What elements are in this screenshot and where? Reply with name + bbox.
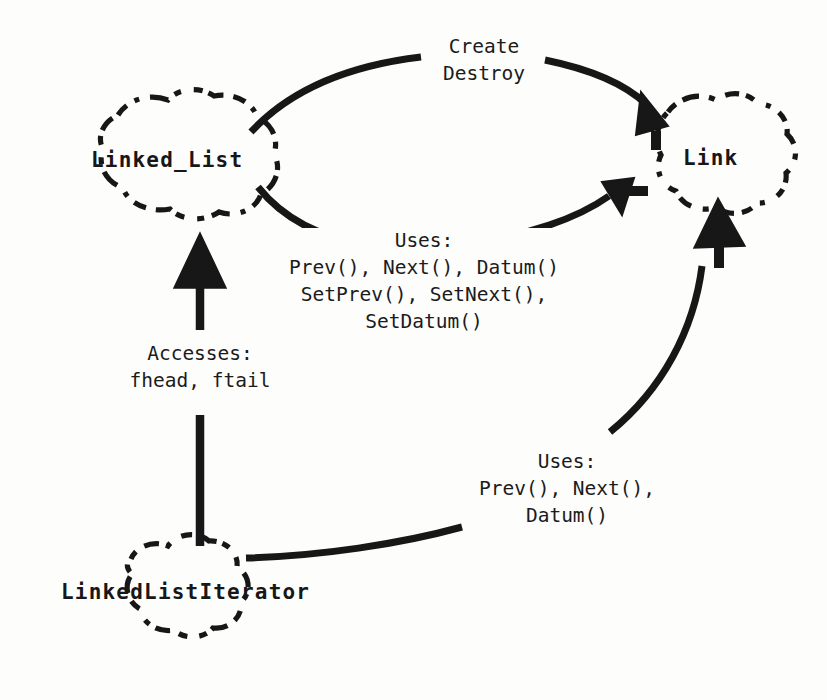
diagram-canvas: Linked_List Link LinkedListIterator Crea… [0, 0, 827, 700]
edge-label-list-uses-link-line-1: Uses: [277, 228, 571, 255]
edge-label-create-destroy-line-1: Create [424, 34, 544, 61]
edge-iterator-accesses-list-arrowhead [174, 233, 226, 288]
edge-label-list-uses-link-line-4: SetDatum() [277, 309, 571, 336]
edge-list-uses-link-arrow-tail [629, 186, 648, 196]
edge-label-iterator-accesses-list-line-2: fhead, ftail [106, 368, 294, 395]
edge-label-iterator-accesses-list: Accesses: fhead, ftail [106, 341, 294, 395]
edge-label-iterator-accesses-list-line-1: Accesses: [106, 341, 294, 368]
edge-label-list-uses-link-line-2: Prev(), Next(), Datum() [277, 255, 571, 282]
class-label-linked-list-iterator: LinkedListIterator [61, 582, 310, 603]
edge-label-list-uses-link: Uses: Prev(), Next(), Datum() SetPrev(),… [277, 228, 571, 336]
edge-label-create-destroy: Create Destroy [424, 34, 544, 88]
edge-iterator-uses-link-line-lower [246, 527, 462, 558]
edge-label-iterator-uses-link-line-1: Uses: [463, 449, 671, 476]
edge-label-iterator-uses-link-line-2: Prev(), Next(), [463, 476, 671, 503]
edge-create-destroy-line-left [251, 57, 421, 132]
edge-iterator-uses-link-arrow-tail [714, 244, 724, 268]
edge-label-list-uses-link-line-3: SetPrev(), SetNext(), [277, 282, 571, 309]
edge-label-iterator-uses-link: Uses: Prev(), Next(), Datum() [463, 449, 671, 530]
edge-create-destroy-line-right [545, 60, 646, 104]
edge-create-destroy-arrow-tail [651, 131, 661, 150]
edge-label-create-destroy-line-2: Destroy [424, 61, 544, 88]
edge-iterator-uses-link-line-upper [610, 266, 702, 432]
edge-iterator-uses-link-arrowhead [694, 198, 745, 248]
class-label-linked-list: Linked_List [91, 150, 243, 171]
class-label-link: Link [683, 148, 738, 169]
edge-label-iterator-uses-link-line-3: Datum() [463, 503, 671, 530]
